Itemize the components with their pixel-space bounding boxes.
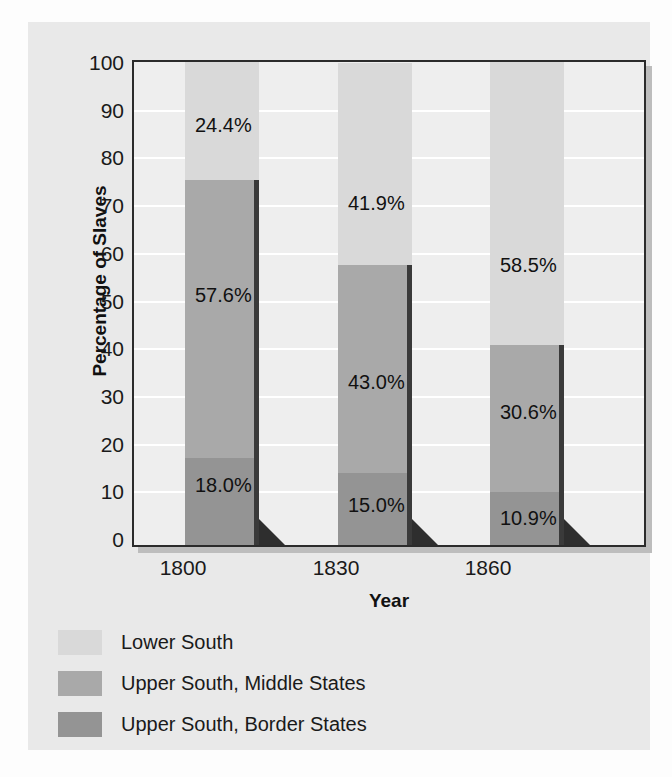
y-tick-0: 0 [112, 529, 124, 550]
value-label-upper-middle-1800: 57.6% [195, 284, 252, 307]
legend-label-lower-south: Lower South [121, 631, 233, 654]
legend-label-upper-south-border: Upper South, Border States [121, 713, 367, 736]
legend: Lower South Upper South, Middle States U… [58, 622, 618, 745]
bar-depth-triangle-1830 [412, 519, 438, 545]
y-tick-90: 90 [101, 100, 124, 121]
y-tick-50: 50 [101, 291, 124, 312]
bar-depth-triangle-1860 [564, 519, 590, 545]
legend-swatch-upper-south-border [58, 712, 102, 737]
bar-segment-lower-south-1830[interactable] [338, 63, 412, 265]
bar-stack-1860 [490, 62, 564, 545]
legend-item-lower-south[interactable]: Lower South [58, 622, 618, 663]
value-label-lower-south-1860: 58.5% [500, 254, 557, 277]
value-label-upper-middle-1860: 30.6% [500, 401, 557, 424]
bar-edge-1860 [559, 345, 564, 545]
value-label-upper-border-1830: 15.0% [348, 494, 405, 517]
bar-segment-lower-south-1860[interactable] [490, 62, 564, 345]
y-axis: Percentage of Slaves 100 90 80 70 60 50 … [58, 60, 124, 547]
value-label-upper-middle-1830: 43.0% [348, 371, 405, 394]
x-tick-1860: 1860 [428, 556, 548, 580]
y-tick-40: 40 [101, 338, 124, 359]
bar-segment-upper-middle-1800[interactable] [185, 180, 259, 458]
legend-label-upper-south-middle: Upper South, Middle States [121, 672, 366, 695]
value-label-lower-south-1800: 24.4% [195, 114, 252, 137]
bar-group-1830[interactable] [338, 62, 412, 545]
plot-area: 24.4% 57.6% 18.0% 41.9% 43.0% 15.0% [132, 60, 646, 547]
legend-item-upper-south-border[interactable]: Upper South, Border States [58, 704, 618, 745]
value-label-upper-border-1800: 18.0% [195, 474, 252, 497]
legend-swatch-lower-south [58, 630, 102, 655]
bar-segment-upper-middle-1830[interactable] [338, 265, 412, 473]
legend-swatch-upper-south-middle [58, 671, 102, 696]
y-tick-60: 60 [101, 243, 124, 264]
y-tick-100: 100 [89, 52, 124, 73]
bar-edge-1800 [254, 180, 259, 545]
bar-group-1860[interactable] [490, 62, 564, 545]
bar-edge-1830 [407, 265, 412, 545]
bar-stack-1830 [338, 62, 412, 545]
value-label-upper-border-1860: 10.9% [500, 507, 557, 530]
figure-container: Percentage of Slaves 100 90 80 70 60 50 … [0, 0, 672, 777]
legend-item-upper-south-middle[interactable]: Upper South, Middle States [58, 663, 618, 704]
y-tick-70: 70 [101, 195, 124, 216]
chart-panel: Percentage of Slaves 100 90 80 70 60 50 … [28, 22, 650, 750]
y-tick-30: 30 [101, 386, 124, 407]
x-axis-title: Year [132, 590, 646, 612]
bar-segment-upper-border-1800[interactable] [185, 458, 259, 545]
x-tick-1830: 1830 [276, 556, 396, 580]
plot-frame: 24.4% 57.6% 18.0% 41.9% 43.0% 15.0% [132, 60, 646, 547]
value-label-lower-south-1830: 41.9% [348, 192, 405, 215]
y-tick-80: 80 [101, 147, 124, 168]
y-tick-20: 20 [101, 434, 124, 455]
bar-depth-triangle-1800 [259, 519, 285, 545]
y-axis-title: Percentage of Slaves [89, 151, 111, 411]
x-tick-1800: 1800 [123, 556, 243, 580]
y-tick-10: 10 [101, 481, 124, 502]
